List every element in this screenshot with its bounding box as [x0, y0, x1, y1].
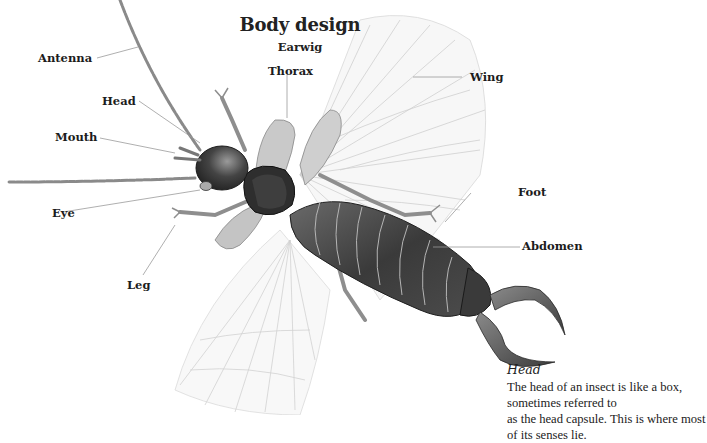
label-abdomen: Abdomen: [522, 239, 583, 253]
caption-body: The head of an insect is like a box, som…: [507, 379, 707, 443]
figure-subtitle: Earwig: [200, 40, 400, 54]
label-wing: Wing: [470, 70, 503, 84]
label-antenna: Antenna: [38, 51, 92, 65]
label-eye: Eye: [52, 206, 75, 220]
label-foot: Foot: [518, 185, 546, 199]
left-wing: [175, 230, 330, 415]
caption-line-1: The head of an insect is like a box, som…: [507, 379, 707, 411]
figure-title: Body design: [200, 14, 400, 35]
caption-line-2: as the head capsule. This is where most …: [507, 411, 707, 443]
label-mouth: Mouth: [55, 130, 97, 144]
caption-heading: Head: [507, 362, 541, 377]
label-head: Head: [102, 94, 136, 108]
antennae: [8, 0, 200, 182]
label-thorax: Thorax: [268, 64, 313, 78]
label-leg: Leg: [127, 278, 150, 292]
